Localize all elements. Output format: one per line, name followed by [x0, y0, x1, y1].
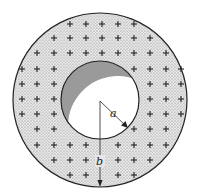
label-a: a — [110, 107, 117, 120]
charged-shell-diagram: a b — [0, 0, 197, 196]
label-b: b — [96, 155, 103, 168]
